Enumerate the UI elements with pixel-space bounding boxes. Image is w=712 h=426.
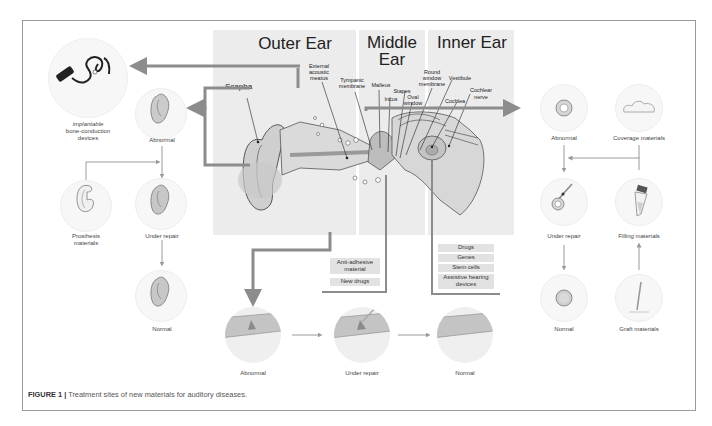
graft-material-icon <box>627 280 651 316</box>
middle-normal-label: Normal <box>443 370 487 377</box>
coverage-material-icon <box>622 98 656 114</box>
tm-under-repair-label: Under repair <box>537 233 591 240</box>
figure-caption: FIGURE 1 | Treatment sites of new materi… <box>28 390 247 399</box>
middle-under-repair-label: Under repair <box>335 370 389 377</box>
middle-abnormal-label: Abnormal <box>231 370 275 377</box>
tm-normal-icon <box>554 288 574 308</box>
filling-material-icon <box>627 184 651 220</box>
filling-label: Filling materials <box>610 233 668 240</box>
tm-under-repair-icon <box>548 180 578 214</box>
caption-text: Treatment sites of new materials for aud… <box>66 390 247 399</box>
middle-ear-bottom-sequence <box>0 0 712 426</box>
graft-label: Graft materials <box>608 326 670 333</box>
tm-abnormal-label: Abnormal <box>542 135 586 142</box>
tm-normal-label: Normal <box>542 326 586 333</box>
coverage-label: Coverage materials <box>606 135 672 142</box>
caption-label: FIGURE 1 | <box>28 390 66 399</box>
tm-abnormal-icon <box>554 98 574 118</box>
